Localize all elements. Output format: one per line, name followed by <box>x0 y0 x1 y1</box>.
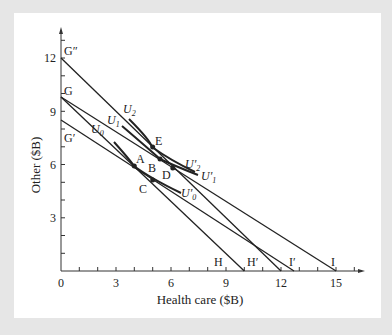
svg-text:C: C <box>139 182 147 196</box>
y-axis-arrow-icon <box>59 27 63 34</box>
svg-text:G: G <box>64 84 73 98</box>
svg-text:0: 0 <box>58 276 64 290</box>
line-G-H <box>61 97 244 271</box>
label-U0: U0 <box>91 122 104 138</box>
y-ticks <box>61 40 65 253</box>
point-C <box>150 178 155 183</box>
x-axis-title: Health care ($B) <box>157 292 244 307</box>
svg-text:D: D <box>162 168 171 182</box>
svg-text:H: H <box>214 255 223 269</box>
svg-text:6: 6 <box>50 158 56 172</box>
svg-text:15: 15 <box>330 276 342 290</box>
svg-text:A: A <box>136 152 145 166</box>
x-axis-arrow-icon <box>358 269 365 273</box>
svg-text:3: 3 <box>50 211 56 225</box>
svg-text:12: 12 <box>44 51 56 65</box>
svg-text:H′: H′ <box>247 255 259 269</box>
svg-text:E: E <box>155 134 162 148</box>
point-D <box>170 166 175 171</box>
x-tick-labels: 0 3 6 9 12 15 <box>58 276 342 290</box>
line-Gp-Ip <box>61 120 294 271</box>
axes <box>61 30 362 271</box>
svg-text:I: I <box>331 255 335 269</box>
svg-text:12: 12 <box>275 276 287 290</box>
svg-text:G″: G″ <box>64 44 78 58</box>
line-labels: G″ G G′ H H′ I′ I <box>64 44 335 269</box>
point-B <box>158 157 163 162</box>
svg-text:9: 9 <box>50 105 56 119</box>
line-G-I <box>61 97 336 271</box>
y-tick-labels: 3 6 9 12 <box>44 51 56 225</box>
label-U2: U2 <box>123 102 136 118</box>
svg-text:I′: I′ <box>289 255 296 269</box>
svg-text:B: B <box>148 161 156 175</box>
label-U2-prime: U′2 <box>185 157 200 173</box>
label-U0-prime: U′0 <box>181 186 196 202</box>
y-axis-title: Other ($B) <box>28 137 43 194</box>
label-U1: U1 <box>107 113 120 129</box>
label-U1-prime: U′1 <box>201 169 216 185</box>
chart: 0 3 6 9 12 15 3 6 9 12 Health care ($B) … <box>0 0 392 335</box>
svg-text:G′: G′ <box>64 131 76 145</box>
svg-text:6: 6 <box>168 276 174 290</box>
svg-text:9: 9 <box>223 276 229 290</box>
svg-text:3: 3 <box>113 276 119 290</box>
